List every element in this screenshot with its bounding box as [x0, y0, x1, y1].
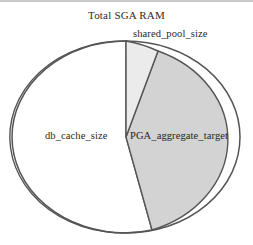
pie-chart-screenshot: Total SGA RAM shared_pool_size db_cache_…	[0, 0, 253, 245]
pie-chart-graphic	[0, 0, 253, 245]
slice-label-pga-aggregate-target: PGA_aggregate_target	[130, 130, 228, 141]
slice-label-db-cache-size: db_cache_size	[45, 130, 108, 141]
slice-label-shared-pool-size: shared_pool_size	[133, 28, 208, 39]
